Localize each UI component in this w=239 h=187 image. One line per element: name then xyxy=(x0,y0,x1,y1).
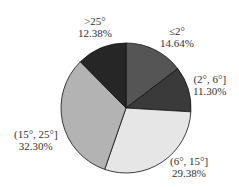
slice-2-value: 29.38% xyxy=(170,167,208,179)
slice-2-category: (6°, 15°] xyxy=(170,155,208,167)
slice-4-category: >25° xyxy=(78,15,112,27)
label-slice-1: (2°, 6°] 11.30% xyxy=(193,73,227,97)
label-slice-4: >25° 12.38% xyxy=(78,15,112,39)
slice-4-value: 12.38% xyxy=(78,27,112,39)
slice-0-category: ≤2° xyxy=(160,25,194,37)
slice-0-value: 14.64% xyxy=(160,37,194,49)
label-slice-3: (15°, 25°] 32.30% xyxy=(14,128,58,152)
slice-3-value: 32.30% xyxy=(14,140,58,152)
label-slice-0: ≤2° 14.64% xyxy=(160,25,194,49)
slice-1-value: 11.30% xyxy=(193,85,227,97)
label-slice-2: (6°, 15°] 29.38% xyxy=(170,155,208,179)
slice-3-category: (15°, 25°] xyxy=(14,128,58,140)
slice-1-category: (2°, 6°] xyxy=(193,73,227,85)
